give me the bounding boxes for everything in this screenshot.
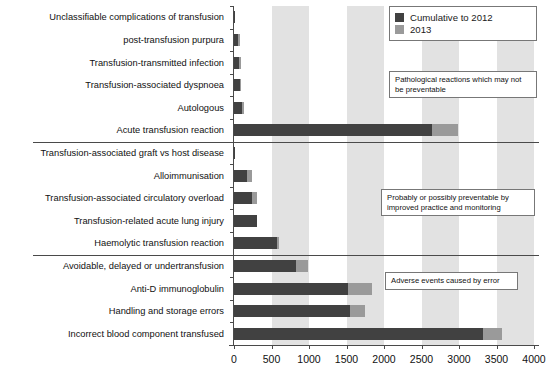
x-axis-tick-label: 500: [263, 353, 281, 365]
x-axis-tick: [384, 345, 385, 349]
bar-segment: [234, 237, 277, 249]
category-label: Transfusion-associated graft vs host dis…: [40, 148, 224, 158]
x-axis-tick-label: 2500: [410, 353, 433, 365]
x-axis-tick-label: 3000: [447, 353, 470, 365]
bar-segment: [242, 102, 243, 114]
category-label: Autologous: [177, 103, 224, 113]
bar-segment: [350, 305, 365, 317]
y-axis-tick: [230, 119, 234, 120]
category-label: Alloimmunisation: [154, 171, 224, 181]
y-axis-tick: [230, 209, 234, 210]
bar-segment: [277, 237, 278, 249]
y-axis-tick: [230, 96, 234, 97]
bar-segment: [247, 170, 252, 182]
bar-segment: [432, 124, 458, 136]
group-divider: [33, 255, 539, 256]
category-label: post-transfusion purpura: [123, 35, 224, 45]
x-axis-tick-label: 3500: [485, 353, 508, 365]
bar-segment: [234, 170, 247, 182]
x-axis-tick: [309, 345, 310, 349]
bar-segment: [240, 79, 241, 91]
legend-item-2013: 2013: [395, 24, 531, 35]
y-axis-tick: [230, 300, 234, 301]
category-label: Transfusion-related acute lung injury: [74, 216, 224, 226]
x-axis-tick: [497, 345, 498, 349]
annotation-preventable: Probably or possibly preventable by impr…: [381, 189, 535, 216]
y-axis-tick: [230, 322, 234, 323]
y-axis-tick: [230, 232, 234, 233]
bar-segment: [234, 283, 348, 295]
legend-swatch-2013: [395, 25, 404, 34]
y-axis-tick: [230, 277, 234, 278]
legend-swatch-cumulative: [395, 13, 404, 22]
bar-segment: [234, 305, 350, 317]
category-label: Acute transfusion reaction: [117, 125, 225, 135]
category-label: Anti-D immunoglobulin: [130, 284, 224, 294]
bar-segment: [239, 57, 240, 69]
bar-segment: [234, 147, 235, 159]
bar-segment: [234, 124, 432, 136]
background-band: [422, 6, 460, 345]
plot-area: 05001000150020002500300035004000: [234, 6, 534, 345]
legend-label-2013: 2013: [410, 24, 431, 35]
bar-segment: [234, 102, 242, 114]
category-label: Handling and storage errors: [109, 306, 224, 316]
x-axis-tick-label: 0: [231, 353, 237, 365]
bar-segment: [234, 328, 483, 340]
bar-segment: [234, 215, 257, 227]
category-label: Avoidable, delayed or undertransfusion: [63, 261, 224, 271]
x-axis-tick-label: 2000: [372, 353, 395, 365]
category-label: Transfusion-transmitted infection: [89, 58, 224, 68]
category-axis-labels: Unclassifiable complications of transfus…: [0, 0, 230, 345]
background-band: [497, 6, 535, 345]
bar-segment: [234, 11, 235, 23]
y-axis-tick: [230, 164, 234, 165]
legend-item-cumulative: Cumulative to 2012: [395, 12, 531, 23]
bar-segment: [234, 260, 296, 272]
category-label: Transfusion-associated dyspnoea: [85, 80, 224, 90]
bar-segment: [296, 260, 308, 272]
bar-segment: [234, 192, 252, 204]
y-axis-tick: [230, 187, 234, 188]
bar-segment: [252, 192, 257, 204]
legend: Cumulative to 2012 2013: [389, 6, 537, 41]
x-axis-tick: [272, 345, 273, 349]
x-axis-tick: [234, 345, 235, 349]
bar-segment: [238, 34, 239, 46]
y-axis-tick: [230, 6, 234, 7]
category-label: Transfusion-associated circulatory overl…: [45, 193, 224, 203]
x-axis-tick: [422, 345, 423, 349]
x-axis-tick: [459, 345, 460, 349]
category-label: Unclassifiable complications of transfus…: [49, 12, 224, 22]
y-axis-tick: [230, 74, 234, 75]
x-axis-tick-label: 4000: [522, 353, 545, 365]
y-axis-tick: [230, 29, 234, 30]
group-divider: [33, 142, 539, 143]
x-axis-tick-label: 1500: [335, 353, 358, 365]
x-axis-tick-label: 1000: [297, 353, 320, 365]
legend-label-cumulative: Cumulative to 2012: [410, 12, 493, 23]
bar-segment: [483, 328, 502, 340]
y-axis-tick: [230, 51, 234, 52]
bar-segment: [348, 283, 372, 295]
x-axis-tick: [534, 345, 535, 349]
annotation-error: Adverse events caused by error: [385, 272, 518, 290]
x-axis-tick: [347, 345, 348, 349]
category-label: Haemolytic transfusion reaction: [94, 238, 224, 248]
annotation-pathological: Pathological reactions which may not be …: [389, 71, 537, 98]
category-label: Incorrect blood component transfused: [68, 329, 224, 339]
